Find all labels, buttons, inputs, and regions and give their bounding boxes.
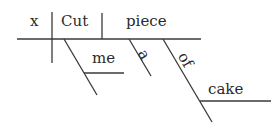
verb-word: Cut bbox=[61, 14, 88, 29]
direct-object-word: piece bbox=[126, 14, 167, 29]
indirect-object-word: me bbox=[92, 51, 115, 66]
prepositional-object-word: cake bbox=[208, 82, 243, 97]
indirect-object-slant bbox=[64, 39, 97, 95]
subject-word: x bbox=[30, 14, 38, 29]
sentence-diagram: x Cut piece me a of cake bbox=[0, 0, 276, 132]
